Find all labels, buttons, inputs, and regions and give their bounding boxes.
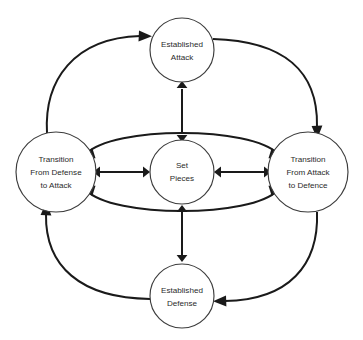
node-label-line-1: Established	[161, 286, 203, 295]
node-label-line-1: Transition	[38, 155, 73, 164]
edge-path	[225, 212, 317, 301]
edge-left-center	[93, 167, 150, 178]
node-established-attack[interactable]: Established Attack	[150, 18, 214, 82]
edge-outer-right-to-defense	[213, 212, 317, 306]
node-established-defense[interactable]: Established Defense	[150, 264, 214, 328]
edge-outer-defense-to-left	[41, 202, 150, 299]
edge-outer-left-to-attack	[47, 31, 152, 134]
node-label-line-3: to Defence	[288, 181, 328, 190]
node-transition-defense-to-attack[interactable]: Transition From Defense to Attack	[16, 132, 96, 212]
node-shape[interactable]	[150, 140, 214, 204]
node-label-line-1: Transition	[290, 155, 325, 164]
node-label-line-2: Pieces	[170, 174, 194, 183]
node-label-line-1: Established	[161, 40, 203, 49]
edge-path	[46, 214, 150, 299]
edge-center-right	[214, 167, 271, 178]
node-label-line-2: Attack	[171, 53, 194, 62]
edge-outer-attack-to-right	[213, 39, 322, 139]
arrowhead-icon-down	[177, 255, 188, 262]
node-label-line-2: Defense	[167, 299, 198, 308]
node-label-line-1: Set	[176, 161, 189, 170]
arrowhead-icon-right	[143, 167, 150, 178]
node-label-line-3: to Attack	[40, 181, 72, 190]
edge-path	[47, 36, 140, 133]
edge-center-defense	[177, 205, 188, 262]
diagram-canvas: Established Attack Transition From Defen…	[0, 0, 363, 340]
node-label-line-2: From Defense	[30, 168, 82, 177]
node-shape[interactable]	[150, 18, 214, 82]
arrowhead-icon	[139, 31, 153, 42]
cycle-diagram-svg: Established Attack Transition From Defen…	[0, 0, 363, 340]
arrowhead-icon-left	[214, 167, 221, 178]
edge-path	[213, 39, 317, 126]
arrowhead-icon	[213, 296, 226, 307]
arrowhead-icon-up	[177, 205, 188, 212]
node-transition-attack-to-defence[interactable]: Transition From Attack to Defence	[268, 132, 348, 212]
node-shape[interactable]	[150, 264, 214, 328]
node-label-line-2: From Attack	[286, 168, 330, 177]
node-set-pieces[interactable]: Set Pieces	[150, 140, 214, 204]
